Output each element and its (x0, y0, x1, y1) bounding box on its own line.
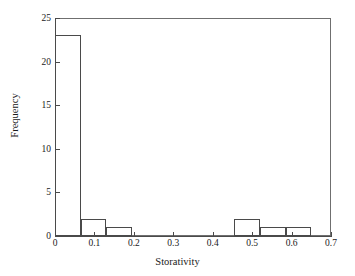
x-axis-tick (252, 232, 253, 236)
x-axis-tick-label: 0.2 (117, 238, 151, 249)
y-axis-tick (56, 192, 60, 193)
x-axis-tick-label: 0.4 (196, 238, 230, 249)
x-axis-tick (331, 232, 332, 236)
x-axis-tick (134, 232, 135, 236)
x-axis-spine (55, 236, 332, 237)
histogram-bar (286, 227, 312, 236)
y-axis-tick (56, 236, 60, 237)
x-axis-tick (292, 232, 293, 236)
histogram-bar (106, 227, 132, 236)
y-axis-tick-label: 20 (23, 57, 51, 67)
x-axis-tick (213, 232, 214, 236)
x-axis-tick-label: 0.1 (77, 238, 111, 249)
x-axis-tick-label: 0.3 (156, 238, 190, 249)
y-axis-tick (56, 105, 60, 106)
y-axis-tick-label: 0 (23, 231, 51, 241)
histogram-bar (55, 35, 81, 236)
x-axis-tick (173, 232, 174, 236)
y-axis-tick-label: 5 (23, 187, 51, 197)
histogram-figure: 00.10.20.30.40.50.60.7 0510152025 Storat… (0, 0, 355, 276)
x-axis-title: Storativity (0, 256, 355, 267)
y-axis-tick-label: 25 (23, 13, 51, 23)
y-axis-tick-label: 10 (23, 144, 51, 154)
y-axis-tick (56, 62, 60, 63)
x-axis-tick-label: 0.5 (235, 238, 269, 249)
histogram-bar (234, 219, 260, 236)
y-axis-tick (56, 149, 60, 150)
x-axis-tick-label: 0.7 (314, 238, 348, 249)
y-axis-tick-label: 15 (23, 100, 51, 110)
y-axis-title: Frequency (9, 66, 20, 166)
x-axis-tick-label: 0.6 (275, 238, 309, 249)
x-axis-tick (94, 232, 95, 236)
y-axis-tick (56, 18, 60, 19)
bars-layer (55, 18, 331, 236)
histogram-bar (260, 227, 286, 236)
